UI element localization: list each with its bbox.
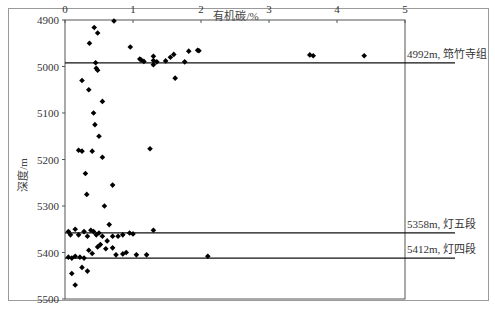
data-point-diamond xyxy=(72,282,78,288)
x-tick-label: 1 xyxy=(130,3,136,15)
data-point-diamond xyxy=(69,271,75,277)
data-point-diamond xyxy=(81,255,87,261)
x-tick-label: 2 xyxy=(198,3,204,15)
data-point-diamond xyxy=(110,245,116,251)
data-point-diamond xyxy=(87,40,93,46)
data-point-diamond xyxy=(89,148,95,154)
y-tick-label: 5500 xyxy=(37,293,60,305)
x-tick-label: 0 xyxy=(62,3,68,15)
x-tick-label: 4 xyxy=(334,3,340,15)
data-point-diamond xyxy=(102,203,108,209)
data-point-diamond xyxy=(110,233,116,239)
data-point-diamond xyxy=(92,122,98,128)
data-point-diamond xyxy=(134,252,140,258)
data-point-diamond xyxy=(127,44,133,50)
reference-lines: 4992m, 筇竹寺组5358m, 灯五段5412m, 灯四段 xyxy=(65,47,487,258)
y-axis-title: 深度/m xyxy=(16,158,29,192)
data-point-diamond xyxy=(77,254,83,260)
data-point-diamond xyxy=(151,227,157,233)
y-tick-label: 5200 xyxy=(37,154,60,166)
data-point-diamond xyxy=(115,233,121,239)
data-point-diamond xyxy=(84,192,90,198)
data-point-diamond xyxy=(147,146,153,152)
data-point-diamond xyxy=(144,252,150,258)
y-tick-label: 5000 xyxy=(37,61,60,73)
data-point-diamond xyxy=(91,110,97,116)
data-point-diamond xyxy=(79,265,85,271)
x-tick-label: 5 xyxy=(402,3,408,15)
y-tick-label: 5300 xyxy=(37,200,60,212)
y-axis-ticks: 4900500051005200530054005500 xyxy=(37,14,65,305)
y-tick-label: 5100 xyxy=(37,107,60,119)
data-point-diamond xyxy=(91,25,97,31)
data-points xyxy=(66,18,367,288)
data-point-diamond xyxy=(110,182,116,188)
scatter-chart: 有机碳/% 深度/m 012345 4900500051005200530054… xyxy=(0,0,495,327)
x-tick-label: 3 xyxy=(266,3,272,15)
data-point-diamond xyxy=(106,222,112,228)
data-point-diamond xyxy=(83,171,89,177)
data-point-diamond xyxy=(103,246,109,252)
data-point-diamond xyxy=(85,268,91,274)
reference-line-label: 5412m, 灯四段 xyxy=(407,242,476,255)
data-point-diamond xyxy=(96,133,102,139)
data-point-diamond xyxy=(113,252,119,258)
reference-line-label: 4992m, 筇竹寺组 xyxy=(407,47,487,60)
y-tick-label: 5400 xyxy=(37,247,60,259)
data-point-diamond xyxy=(72,226,78,232)
data-point-diamond xyxy=(86,87,92,93)
data-point-diamond xyxy=(104,238,110,244)
data-point-diamond xyxy=(172,75,178,81)
data-point-diamond xyxy=(79,78,85,84)
x-axis-title: 有机碳/% xyxy=(213,9,258,22)
data-point-diamond xyxy=(100,154,106,160)
data-point-diamond xyxy=(85,233,91,239)
data-point-diamond xyxy=(93,60,99,66)
data-point-diamond xyxy=(182,59,188,65)
data-point-diamond xyxy=(111,18,117,24)
data-point-diamond xyxy=(100,99,106,105)
data-point-diamond xyxy=(361,53,367,59)
reference-line-label: 5358m, 灯五段 xyxy=(407,217,476,230)
data-point-diamond xyxy=(95,30,101,36)
data-point-diamond xyxy=(186,48,192,54)
y-tick-label: 4900 xyxy=(37,14,60,26)
